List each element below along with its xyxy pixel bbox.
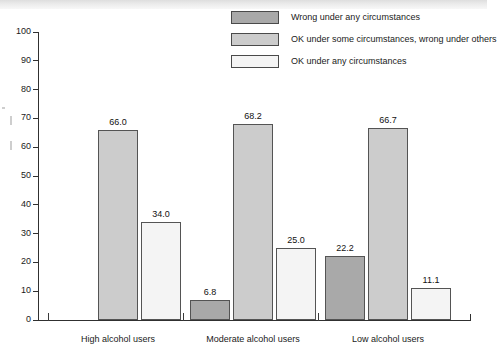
bar-value-label: 25.0 (276, 235, 316, 245)
y-axis-tick-mark (33, 204, 39, 205)
bar[interactable] (98, 130, 138, 320)
y-axis-tick-label: 50 (0, 171, 31, 180)
y-axis-tick-mark (33, 262, 39, 263)
bar[interactable] (141, 222, 181, 320)
bar-value-label: 66.7 (368, 115, 408, 125)
y-axis-tick-mark (33, 32, 39, 33)
y-axis-tick-mark (33, 176, 39, 177)
y-axis-tick-label: 90 (0, 56, 31, 65)
y-axis-tick-mark (33, 118, 39, 119)
bar[interactable] (411, 288, 451, 320)
y-axis-tick-label: 10 (0, 286, 31, 295)
bar[interactable] (325, 256, 365, 320)
bar[interactable] (276, 248, 316, 320)
y-axis-tick-mark (33, 60, 39, 61)
x-axis-group-tick (48, 313, 49, 321)
y-axis-tick-mark (33, 89, 39, 90)
bar-value-label: 34.0 (141, 209, 181, 219)
bar-value-label: 66.0 (98, 117, 138, 127)
bar-value-label: 68.2 (233, 111, 273, 121)
bar[interactable] (368, 128, 408, 320)
x-axis-line (38, 320, 471, 321)
y-axis-tick-label: 60 (0, 142, 31, 151)
x-axis-group-label: Low alcohol users (325, 334, 451, 344)
bar-value-label: 22.2 (325, 243, 365, 253)
bar-value-label: 6.8 (190, 287, 230, 297)
y-axis-tick-label: 100 (0, 27, 31, 36)
x-axis-group-label: Moderate alcohol users (190, 334, 316, 344)
x-axis-group-label: High alcohol users (55, 334, 181, 344)
y-axis-tick-mark (33, 320, 39, 321)
y-axis-tick-mark (33, 291, 39, 292)
x-axis-end-tick (470, 314, 471, 321)
y-axis-tick-mark (33, 147, 39, 148)
y-axis-tick-label: 20 (0, 257, 31, 266)
bar-value-label: 11.1 (411, 275, 451, 285)
x-axis-group-tick (183, 313, 184, 321)
bar[interactable] (190, 300, 230, 320)
y-axis-tick-label: 70 (0, 113, 31, 122)
y-axis-tick-label: 80 (0, 85, 31, 94)
bar[interactable] (233, 124, 273, 320)
y-axis-tick-mark (33, 233, 39, 234)
x-axis-group-tick (318, 313, 319, 321)
y-axis-line (38, 32, 39, 321)
y-axis-tick-label: 30 (0, 229, 31, 238)
y-axis-tick-label: 0 (0, 315, 31, 324)
y-axis-tick-label: 40 (0, 200, 31, 209)
